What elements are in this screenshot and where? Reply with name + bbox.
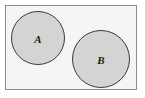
set-label-a: A (33, 33, 41, 45)
venn-diagram-figure: A B (0, 0, 145, 98)
set-label-b: B (96, 54, 104, 66)
venn-diagram-canvas: A B (0, 0, 145, 98)
